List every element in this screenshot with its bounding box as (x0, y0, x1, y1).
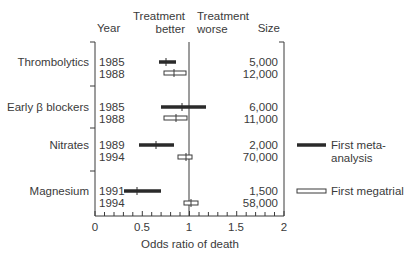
left-bracket (90, 42, 95, 216)
megatrial-bars (164, 71, 198, 205)
meta-analysis-bars (124, 62, 206, 191)
legend-megatrial-swatch (297, 189, 326, 193)
right-bracket (279, 42, 284, 216)
forest-plot (0, 0, 412, 259)
